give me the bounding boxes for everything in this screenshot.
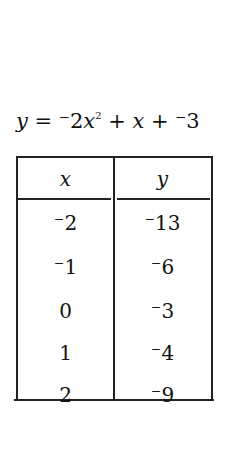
cell-y: ⁻13 — [115, 211, 210, 235]
plus-sign: + — [144, 109, 175, 133]
variable-x: x — [83, 109, 95, 133]
cell-y: ⁻3 — [115, 299, 210, 323]
cell-y: ⁻9 — [115, 383, 210, 407]
equals-sign: = — [28, 109, 59, 133]
cell-y: ⁻6 — [115, 255, 210, 279]
equation: y = ⁻2x2 + x + ⁻3 — [16, 109, 200, 133]
cell-x: 0 — [18, 299, 113, 323]
header-y: y — [115, 167, 210, 191]
cell-x: ⁻2 — [18, 211, 113, 235]
cell-y: ⁻4 — [115, 341, 210, 365]
cell-x: ⁻1 — [18, 255, 113, 279]
header-divider — [117, 198, 210, 200]
header-divider — [18, 198, 111, 200]
constant: ⁻3 — [175, 109, 199, 133]
equation-lhs: y — [16, 109, 28, 133]
coefficient: ⁻2 — [59, 109, 83, 133]
cell-x: 1 — [18, 341, 113, 365]
cell-x: 2 — [18, 383, 113, 407]
plus-sign: + — [102, 109, 133, 133]
header-x: x — [18, 167, 113, 191]
variable-x: x — [132, 109, 144, 133]
